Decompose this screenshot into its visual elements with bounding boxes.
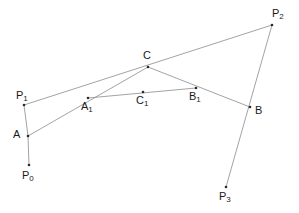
point-label-subscript: 3: [226, 195, 230, 204]
point-label-a: A: [13, 129, 20, 140]
point-dot-p0: [28, 164, 31, 167]
point-label-subscript: 1: [23, 94, 27, 103]
point-label-c1: C1: [136, 95, 148, 106]
point-dot-p3: [225, 186, 228, 189]
segment-a-p1: [24, 105, 28, 136]
segment-p1-p2: [24, 25, 272, 105]
point-label-p2: P2: [272, 8, 284, 19]
point-label-p3: P3: [219, 191, 231, 202]
point-label-p0: P0: [22, 170, 34, 181]
point-dot-p1: [23, 104, 26, 107]
point-label-base: B: [255, 104, 262, 116]
point-dot-p2: [271, 24, 274, 27]
point-label-base: C: [136, 94, 144, 106]
point-label-subscript: 1: [196, 95, 200, 104]
point-label-base: C: [143, 49, 151, 61]
point-label-b: B: [255, 105, 262, 116]
point-label-base: A: [13, 128, 20, 140]
point-dot-b1: [195, 87, 198, 90]
segment-p0-a: [28, 136, 29, 165]
point-dot-b: [249, 106, 252, 109]
point-label-b1: B1: [189, 91, 201, 102]
point-dot-c1: [142, 91, 145, 94]
point-label-a1: A1: [81, 101, 93, 112]
point-label-p1: P1: [16, 90, 28, 101]
geometry-diagram: P0P1P2P3ABCA1B1C1: [0, 0, 299, 213]
point-dot-a: [27, 135, 30, 138]
point-label-subscript: 1: [144, 99, 148, 108]
point-dot-c: [147, 66, 150, 69]
point-label-subscript: 2: [279, 12, 283, 21]
segment-p2-p3: [226, 25, 272, 187]
point-label-c: C: [143, 50, 151, 61]
point-dot-a1: [87, 97, 90, 100]
point-label-subscript: 1: [88, 105, 92, 114]
point-label-subscript: 0: [29, 174, 33, 183]
